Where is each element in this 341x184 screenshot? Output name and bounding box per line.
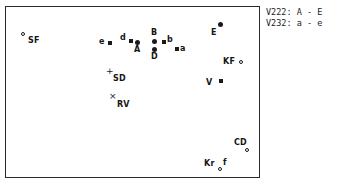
filled-circle-marker — [218, 22, 223, 27]
small-ring-marker — [21, 32, 25, 36]
point-label-v: V — [206, 78, 212, 87]
filled-square-marker — [108, 41, 112, 45]
point-label-sd: SD — [113, 74, 126, 83]
point-label-sf: SF — [28, 36, 40, 45]
point-label-a-upper: A — [134, 45, 140, 54]
filled-square-marker — [162, 40, 166, 44]
small-ring-marker — [239, 60, 243, 64]
point-label-b-upper: B — [151, 28, 157, 37]
small-ring-marker — [245, 148, 249, 152]
point-label-d-lower: d — [120, 33, 126, 42]
point-label-cd: CD — [234, 138, 247, 147]
point-label-kr: Kr — [204, 159, 215, 168]
filled-square-marker — [175, 47, 179, 51]
legend-row-v232: V232: a - e — [266, 18, 340, 29]
point-label-kf: KF — [223, 57, 235, 66]
point-label-rv: RV — [117, 100, 130, 109]
point-label-e-upper: E — [211, 28, 216, 37]
point-label-b-lower: b — [167, 35, 173, 44]
filled-square-marker — [129, 39, 133, 43]
filled-square-marker — [219, 79, 223, 83]
plot-area: SF e d A B D b — [5, 6, 260, 178]
legend-row-v222: V222: A - E — [266, 7, 340, 18]
filled-circle-marker — [152, 39, 157, 44]
legend: V222: A - E V232: a - e — [266, 7, 340, 29]
point-label-d-upper: D — [151, 52, 158, 61]
cross-marker: × — [109, 93, 116, 100]
point-label-f-lower: f — [223, 158, 226, 167]
plus-marker: + — [106, 68, 113, 75]
small-ring-marker — [218, 167, 222, 171]
point-label-e-lower: e — [99, 37, 104, 46]
scatter-plot-figure: SF e d A B D b — [0, 0, 341, 184]
point-label-a-lower: a — [180, 44, 185, 53]
